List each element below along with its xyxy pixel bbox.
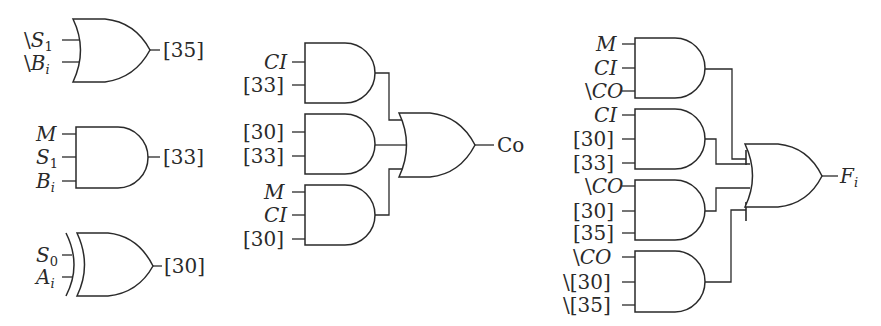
carry-input-ci-2: CI	[264, 203, 288, 227]
func-input-not-co-3: \CO	[573, 245, 611, 269]
carry-input-m: M	[263, 180, 285, 204]
func-input-not-30: \[30]	[563, 270, 611, 294]
input-label-s1: S1	[36, 145, 58, 171]
func-input-35: [35]	[573, 221, 614, 245]
func-input-m: M	[595, 32, 617, 56]
func-and-gate-1	[622, 38, 705, 98]
carry-input-33b: [33]	[243, 144, 284, 168]
func-output-fi: Fi	[839, 164, 858, 190]
output-label-35: [35]	[163, 38, 204, 62]
func-input-not-co: \CO	[585, 79, 623, 103]
carry-input-ci: CI	[264, 50, 288, 74]
func-input-30b: [30]	[573, 199, 614, 223]
func-input-33: [33]	[573, 151, 614, 175]
func-input-not-co-2: \CO	[585, 174, 623, 198]
func-and-gate-2	[622, 109, 705, 169]
func-wires	[705, 69, 750, 282]
func-or-gate	[745, 144, 838, 207]
carry-and-gate-3	[292, 185, 375, 245]
input-label-bi: Bi	[35, 169, 55, 195]
xor-gate-30	[62, 233, 162, 296]
func-and-gate-4	[622, 251, 705, 312]
input-label-not-bi: \Bi	[24, 51, 50, 77]
func-input-ci-2: CI	[594, 103, 618, 127]
func-input-not-35: \[35]	[563, 293, 611, 317]
logic-diagram: \S1 \Bi [35] M S1 Bi [33] S0 Ai [30] CI …	[0, 0, 881, 326]
output-label-33: [33]	[163, 145, 204, 169]
or-gate-35	[62, 19, 160, 82]
carry-input-33: [33]	[243, 73, 284, 97]
carry-and-gate-2	[292, 114, 375, 174]
input-label-m: M	[35, 122, 57, 146]
func-input-ci: CI	[594, 56, 618, 80]
carry-and-gate-1	[292, 43, 375, 103]
carry-output-co: Co	[497, 133, 524, 157]
func-input-30: [30]	[573, 127, 614, 151]
output-label-30: [30]	[164, 254, 205, 278]
carry-wires	[375, 73, 407, 215]
carry-input-30: [30]	[243, 120, 284, 144]
and-gate-33	[62, 127, 160, 188]
func-and-gate-3	[622, 180, 705, 240]
carry-input-30b: [30]	[243, 227, 284, 251]
carry-or-gate	[399, 113, 494, 177]
